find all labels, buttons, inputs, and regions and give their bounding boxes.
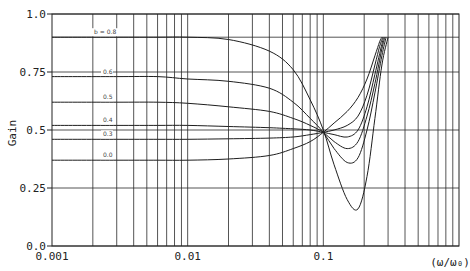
curve-label: 0.5: [103, 93, 113, 100]
x-tick-label: 0.1: [313, 250, 333, 263]
y-tick-label: 0.75: [20, 66, 47, 79]
x-tick-label: 0.01: [174, 250, 201, 263]
curve-label: b = 0.8: [94, 28, 116, 35]
x-axis-title: (ω/ω₀): [430, 256, 470, 269]
horizontal-gridlines: [52, 14, 459, 246]
curve-label: 0.6: [103, 68, 113, 75]
x-axis-ticks: 0.0010.010.1: [35, 250, 333, 263]
y-tick-label: 1.0: [26, 8, 46, 21]
y-axis-ticks: 0.00.250.50.751.0: [20, 8, 53, 253]
y-tick-label: 0.25: [20, 182, 47, 195]
x-tick-label: 0.001: [35, 250, 68, 263]
gain-vs-frequency-chart: b = 0.80.60.50.40.30.0 0.00.250.50.751.0…: [0, 0, 470, 271]
curve-label: 0.4: [103, 116, 113, 123]
curve-label: 0.0: [103, 151, 113, 158]
curve-label: 0.3: [103, 130, 113, 137]
y-tick-label: 0.5: [26, 124, 46, 137]
y-axis-title: Gain: [6, 120, 19, 147]
